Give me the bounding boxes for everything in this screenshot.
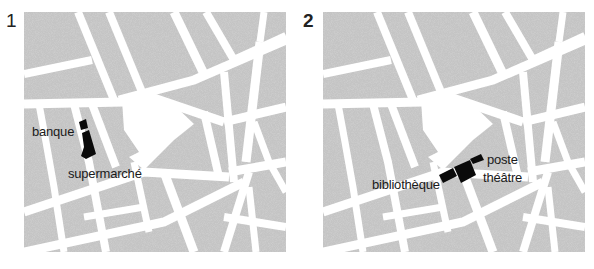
label-banque: banque [32, 124, 74, 139]
map-panel-1: 1 banque supermarché [0, 0, 297, 269]
label-supermarche: supermarché [68, 166, 142, 181]
panel-number-2: 2 [303, 10, 314, 32]
label-bibliotheque: bibliothèque [372, 177, 440, 192]
street-map-2 [323, 12, 585, 252]
label-theatre: théâtre [483, 170, 522, 185]
label-poste: poste [487, 152, 518, 167]
panel-number-1: 1 [6, 10, 17, 32]
map-panel-2: 2 poste théâtre bibliothèque [297, 0, 594, 269]
